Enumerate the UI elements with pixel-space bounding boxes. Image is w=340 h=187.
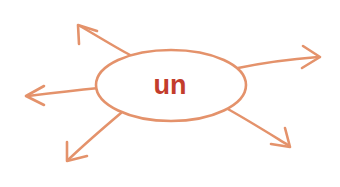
branch-right[interactable] <box>238 46 320 68</box>
branch-down-left[interactable] <box>67 113 121 161</box>
branch-down-right-line <box>226 108 288 145</box>
branch-down-right[interactable] <box>226 108 290 147</box>
diagram-canvas: un <box>0 0 340 187</box>
branch-left[interactable] <box>26 86 99 105</box>
branch-down-left-line <box>69 113 121 159</box>
branch-up-left-line <box>80 26 132 56</box>
radial-mind-map-diagram: un <box>0 0 340 187</box>
branch-up-left[interactable] <box>78 25 132 56</box>
central-node-label: un <box>154 70 187 100</box>
